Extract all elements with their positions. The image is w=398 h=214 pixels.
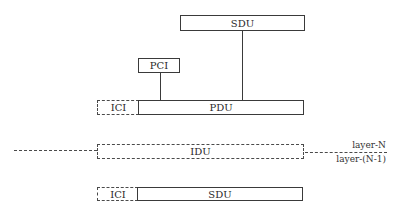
bottom-sdu-box: SDU [137, 187, 303, 201]
pci-label: PCI [150, 60, 168, 71]
bottom-ici-label: ICI [110, 189, 126, 200]
bottom-ici-box: ICI [97, 187, 138, 201]
idu-box: IDU [97, 144, 304, 159]
top-sdu-box: SDU [180, 15, 305, 31]
pci-connector-line [160, 73, 161, 101]
top-sdu-label: SDU [231, 18, 254, 29]
pdu-label: PDU [209, 102, 232, 113]
layer-n-minus-1-label: layer-(N-1) [336, 154, 386, 164]
layer-boundary-right [305, 152, 387, 153]
idu-label: IDU [190, 146, 210, 157]
layer-n-label: layer-N [352, 140, 386, 150]
pdu-row-ici-box: ICI [97, 100, 139, 115]
pci-box: PCI [138, 58, 180, 73]
bottom-sdu-label: SDU [208, 189, 231, 200]
layer-boundary-left [14, 150, 97, 151]
pdu-row-ici-label: ICI [111, 102, 127, 113]
sdu-connector-line [242, 31, 243, 101]
pdu-box: PDU [138, 100, 304, 115]
